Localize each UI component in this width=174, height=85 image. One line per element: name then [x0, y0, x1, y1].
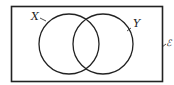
set-x-leader-line: [40, 18, 46, 21]
set-x-circle: [39, 14, 99, 74]
venn-diagram: X Y ℰ: [0, 0, 174, 85]
set-y-label: Y: [133, 17, 142, 30]
set-y-circle: [73, 14, 133, 74]
universal-set-label: ℰ: [166, 38, 173, 48]
set-x-label: X: [30, 10, 40, 23]
